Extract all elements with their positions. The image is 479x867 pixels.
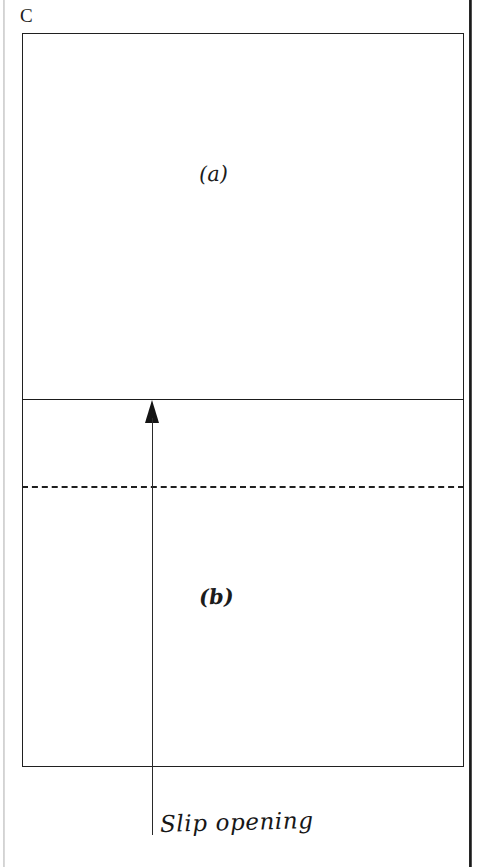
panel-letter: C <box>20 6 33 25</box>
region-divider-line <box>22 399 464 400</box>
slip-opening-caption: Slip opening <box>160 807 314 837</box>
scan-edge-left <box>3 0 5 867</box>
region-label-a: (a) <box>199 164 229 186</box>
diagram-outer-rectangle <box>22 33 464 767</box>
figure-page: C (a) (b) Slip opening <box>0 0 479 867</box>
region-label-b: (b) <box>199 585 234 607</box>
dashed-reference-line <box>22 486 464 488</box>
leader-line <box>152 418 153 835</box>
scan-edge-right <box>469 0 472 867</box>
